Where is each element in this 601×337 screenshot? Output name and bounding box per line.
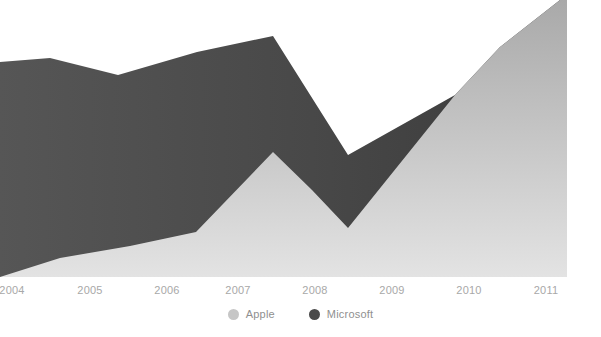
- legend-swatch-apple-icon: [228, 309, 239, 320]
- legend-item-apple[interactable]: Apple: [228, 308, 275, 320]
- legend-label-microsoft: Microsoft: [327, 308, 373, 320]
- legend-swatch-microsoft-icon: [309, 309, 320, 320]
- legend-label-apple: Apple: [246, 308, 275, 320]
- area-chart: 2004 2005 2006 2007 2008 2009 2010 2011 …: [0, 0, 601, 337]
- legend-item-microsoft[interactable]: Microsoft: [309, 308, 373, 320]
- chart-legend: Apple Microsoft: [0, 308, 601, 320]
- chart-plot-area: [0, 0, 601, 337]
